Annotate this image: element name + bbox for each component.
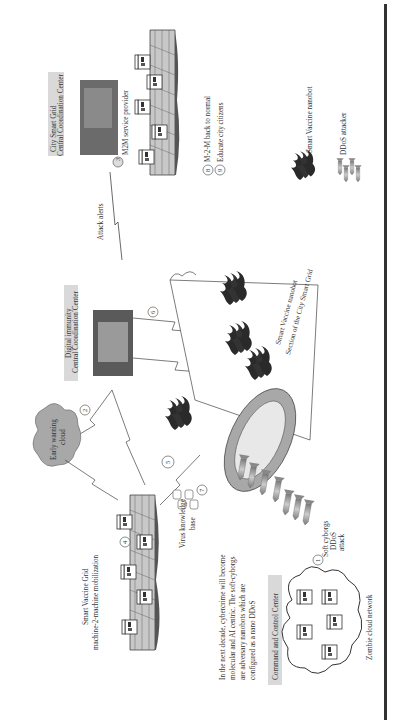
legend-ddos-label: DDoS attacker (340, 112, 348, 155)
cybercrime-text-1: In the next decade, cybercrime will beco… (219, 554, 227, 680)
svg-text:2: 2 (81, 409, 88, 412)
zombie-cloud-label: Zombie cloud network (366, 594, 374, 660)
command-control-label: Command and Control Center (272, 593, 280, 680)
attack-alerts-label: Attack alerts (97, 203, 105, 240)
page-rule (384, 4, 387, 720)
smart-vaccine-grid-platform (117, 495, 160, 650)
cybercrime-text-3: are adversary nanobots which are (239, 584, 247, 680)
svg-text:9: 9 (216, 169, 223, 172)
legend-nanobot-label: Smart Vaccine nanobot (306, 86, 314, 153)
city-smart-grid-subtitle: Central Coordination Center (57, 74, 65, 156)
immunity-grid-link (112, 390, 145, 485)
svg-text:1: 1 (314, 559, 321, 562)
diagram-canvas: City Smart Grid Central Coordination Cen… (0, 0, 409, 727)
m2m-service-provider-label: M2M service provider (122, 90, 130, 155)
soft-cyborgs-label-2: DDoS (330, 532, 338, 550)
virus-kb-label-1: Virus knowledge (179, 499, 187, 548)
cybercrime-text-2: molecular and AI centric. The soft-cybor… (229, 556, 237, 680)
legend-ddos-icon (336, 158, 361, 182)
city-smart-grid-platform (135, 30, 179, 175)
cloud-grid-link (65, 460, 118, 500)
smart-vaccine-grid-subtitle: machine-2-machine mobilization (92, 554, 100, 650)
step-9-label: Educate city citizens (217, 102, 225, 162)
zombie-cloud-network (282, 567, 362, 674)
svg-text:3: 3 (114, 158, 121, 161)
soft-cyborgs-label-1: Soft cyborgs (322, 520, 330, 557)
early-warning-label-2: cloud (59, 429, 67, 445)
attack-alerts-link (110, 172, 122, 260)
virus-kb-label-2: base (189, 517, 197, 530)
digital-immunity-subtitle: Central Coordination Center (72, 291, 80, 373)
svg-text:8: 8 (204, 169, 211, 172)
svg-text:5: 5 (164, 461, 171, 464)
cybercrime-text-4: configured as a nano DDoS (249, 601, 257, 680)
soft-cyborgs-label-3: attack (338, 533, 346, 551)
legend-nanobot-icon (291, 149, 315, 180)
early-warning-label-1: Early warning (50, 419, 58, 460)
smart-vaccine-grid-title: Smart Vaccine Grid (82, 568, 90, 625)
step-8-label: M-2-M back to normal (204, 96, 212, 162)
